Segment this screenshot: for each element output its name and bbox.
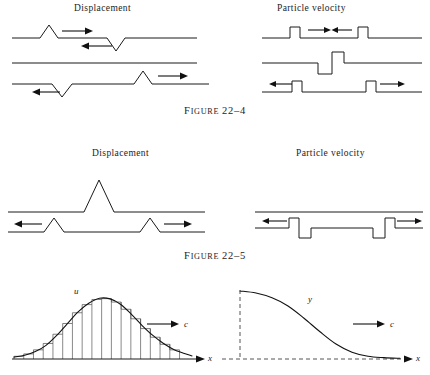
right-arrow-icon-bottom bbox=[380, 81, 405, 87]
velocity-trace-middle bbox=[262, 52, 422, 74]
chart-u-x: x u c bbox=[4, 280, 216, 372]
curve-label-u: u bbox=[74, 286, 79, 296]
velocity-arrow-icon bbox=[353, 321, 385, 328]
curve-label-y: y bbox=[307, 294, 312, 304]
diagram-displacement-fig225 bbox=[8, 170, 213, 240]
row-pulse-pairs bbox=[255, 218, 423, 238]
right-arrow-icon-bottom bbox=[158, 73, 188, 80]
column-title-displacement-fig224: Displacement bbox=[74, 3, 131, 13]
diagram-displacement-fig224 bbox=[12, 22, 212, 100]
right-arrow-icon bbox=[397, 218, 422, 224]
row-separated bbox=[12, 71, 209, 97]
column-title-displacement-fig225: Displacement bbox=[92, 148, 149, 158]
displacement-trace-large-pulse bbox=[8, 180, 205, 212]
row-approaching-pulses bbox=[262, 27, 422, 38]
svg-particle-velocity-fig225 bbox=[255, 170, 430, 240]
svg-displacement-fig225 bbox=[8, 170, 213, 240]
left-arrow-icon bbox=[262, 218, 287, 224]
left-arrow-icon-top bbox=[332, 27, 353, 33]
speed-label-c: c bbox=[184, 319, 188, 329]
caption-number: 22–4 bbox=[222, 105, 246, 116]
displacement-trace-separated bbox=[8, 218, 205, 232]
bell-curve-u bbox=[14, 298, 192, 357]
caption-word: IGURE bbox=[191, 252, 220, 261]
left-arrow-icon-top bbox=[81, 43, 112, 50]
x-axis-label: x bbox=[207, 353, 212, 363]
row-approaching bbox=[12, 25, 197, 51]
chart-y-x: x y c bbox=[218, 280, 430, 372]
row-two-small-pulses bbox=[8, 218, 205, 232]
left-arrow-icon bbox=[14, 221, 42, 228]
displacement-trace-bottom bbox=[12, 71, 209, 97]
textbook-figure-page: Displacement Particle velocity bbox=[0, 0, 430, 375]
column-title-particle-velocity-fig225: Particle velocity bbox=[296, 148, 365, 158]
row-overlap-pulses bbox=[262, 52, 422, 74]
velocity-trace-top bbox=[262, 27, 422, 38]
svg-chart-u-x: x u c bbox=[4, 280, 216, 372]
displacement-trace-top bbox=[12, 25, 197, 51]
diagram-particle-velocity-fig225 bbox=[255, 170, 430, 240]
speed-label-c: c bbox=[390, 319, 394, 329]
diagram-particle-velocity-fig224 bbox=[262, 22, 427, 100]
histogram-strips bbox=[24, 299, 180, 359]
figure-caption-22-4: FIGURE 22–4 bbox=[0, 105, 430, 116]
svg-chart-y-x: x y c bbox=[218, 280, 430, 372]
right-arrow-icon-top bbox=[62, 28, 93, 35]
velocity-arrow-icon bbox=[147, 321, 179, 328]
caption-word: IGURE bbox=[191, 107, 220, 116]
svg-displacement-fig224 bbox=[12, 22, 212, 100]
x-axis-arrowhead bbox=[404, 355, 413, 362]
svg-particle-velocity-fig224 bbox=[262, 22, 427, 100]
column-title-particle-velocity-fig224: Particle velocity bbox=[277, 3, 346, 13]
left-arrow-icon-bottom bbox=[269, 81, 292, 87]
caption-number: 22–5 bbox=[222, 250, 246, 261]
sigmoid-curve-y bbox=[240, 291, 400, 358]
figure-caption-22-5: FIGURE 22–5 bbox=[0, 250, 430, 261]
row-separated-pulses bbox=[262, 81, 422, 92]
right-arrow-icon bbox=[164, 221, 192, 228]
x-axis bbox=[12, 355, 205, 362]
x-axis-label: x bbox=[415, 353, 420, 363]
row-max-constructive bbox=[8, 180, 205, 212]
right-arrow-icon-top bbox=[308, 27, 331, 33]
